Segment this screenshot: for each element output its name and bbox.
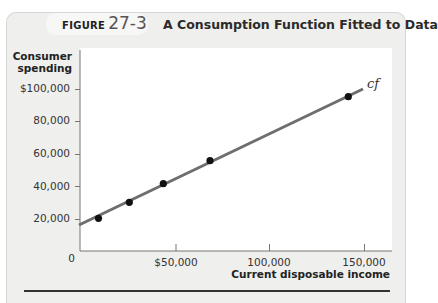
data-point [345,93,352,100]
bottom-rule [24,290,390,292]
data-point [206,157,213,164]
data-point [95,215,102,222]
data-point [160,180,167,187]
y-ticks [75,90,80,220]
data-point [126,199,133,206]
x-ticks [176,244,365,251]
line-label-cf: cf [367,76,379,91]
consumption-function-line [79,89,363,225]
